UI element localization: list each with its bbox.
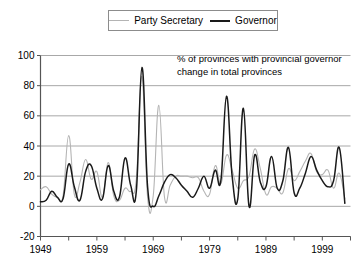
- svg-text:1979: 1979: [198, 244, 221, 255]
- svg-text:0: 0: [29, 201, 35, 212]
- svg-text:1969: 1969: [142, 244, 165, 255]
- svg-text:40: 40: [23, 141, 35, 152]
- chart-container: Party Secretary Governor % of provinces …: [0, 0, 363, 276]
- gridlines: [41, 56, 351, 237]
- svg-text:-20: -20: [20, 231, 35, 242]
- svg-text:80: 80: [23, 80, 35, 91]
- svg-text:1999: 1999: [311, 244, 334, 255]
- svg-text:20: 20: [23, 171, 35, 182]
- svg-text:1989: 1989: [255, 244, 278, 255]
- svg-text:100: 100: [18, 50, 35, 61]
- svg-text:60: 60: [23, 110, 35, 121]
- svg-text:1949: 1949: [29, 244, 52, 255]
- y-axis-tick-labels: -20020406080100: [18, 50, 35, 242]
- axes: [37, 56, 351, 241]
- x-axis-tick-labels: 194919591969197919891999: [29, 244, 334, 255]
- chart-plot-area: -20020406080100 194919591969197919891999: [0, 0, 363, 276]
- svg-text:1959: 1959: [86, 244, 109, 255]
- series-lines: [41, 68, 345, 214]
